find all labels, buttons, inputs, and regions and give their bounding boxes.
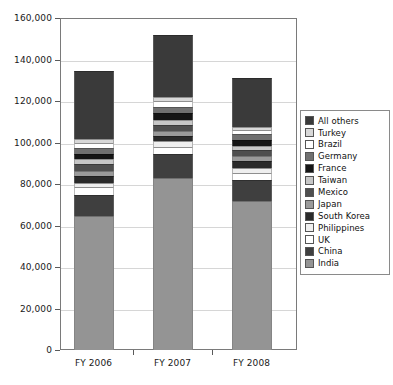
legend-item-label: Brazil [318,140,342,149]
x-axis-tick-label: FY 2007 [154,358,191,368]
bar-fy-2006 [74,71,114,350]
legend-swatch-icon [305,223,314,232]
bar-segment-india [153,178,193,350]
y-axis-tick-mark [55,60,60,61]
legend-item-india[interactable]: India [305,258,386,270]
legend-item-label: Taiwan [318,176,347,185]
legend-swatch-icon [305,235,314,244]
bar-segment-uk [153,147,193,154]
legend-item-france[interactable]: France [305,163,386,175]
legend-item-label: France [318,164,347,173]
bar-segment-germany [153,107,193,113]
x-axis-tick-label: FY 2006 [75,358,112,368]
bar-segment-india [232,201,272,350]
bar-segment-taiwan [232,146,272,150]
legend-swatch-icon [305,164,314,173]
y-axis-tick-mark [55,101,60,102]
bar-segment-turkey [153,97,193,101]
bar-segment-all-others [232,78,272,127]
bar-segment-all-others [153,35,193,97]
bar-segment-brazil [232,130,272,134]
stacked-bar-chart: 020,00040,00060,00080,000100,000120,0001… [0,0,393,385]
bar-segment-philippines [74,183,114,187]
y-axis-tick-label: 100,000 [14,138,52,148]
bar-segment-taiwan [74,159,114,164]
bar-segment-taiwan [153,120,193,125]
bar-segment-turkey [74,139,114,142]
bar-segment-france [74,154,114,159]
legend-item-label: Japan [318,200,342,209]
legend-item-label: India [318,259,339,268]
legend-item-china[interactable]: China [305,246,386,258]
legend-swatch-icon [305,152,314,161]
bar-segment-mexico [74,164,114,170]
legend-swatch-icon [305,188,314,197]
legend-item-label: Mexico [318,188,348,197]
legend-swatch-icon [305,116,314,125]
y-axis-tick-mark [55,143,60,144]
legend: All othersTurkeyBrazilGermanyFranceTaiwa… [300,110,390,275]
y-axis-tick-mark [55,309,60,310]
y-axis-tick-label: 140,000 [14,55,52,65]
y-axis-tick-mark [55,350,60,351]
y-axis-tick-label: 60,000 [20,221,52,231]
bar-segment-mexico [153,125,193,131]
legend-item-taiwan[interactable]: Taiwan [305,174,386,186]
bar-fy-2008 [232,78,272,350]
bar-segment-japan [232,156,272,161]
legend-item-brazil[interactable]: Brazil [305,139,386,151]
bar-segment-japan [153,131,193,136]
y-axis-tick-label: 0 [46,345,52,355]
legend-item-uk[interactable]: UK [305,234,386,246]
y-axis-tick-mark [55,184,60,185]
bar-fy-2007 [153,35,193,350]
legend-swatch-icon [305,200,314,209]
legend-item-philippines[interactable]: Philippines [305,222,386,234]
bar-segment-germany [74,148,114,154]
legend-item-all-others[interactable]: All others [305,115,386,127]
y-axis-tick-mark [55,226,60,227]
legend-swatch-icon [305,247,314,256]
legend-swatch-icon [305,140,314,149]
legend-item-label: All others [318,117,359,126]
y-axis-tick-label: 120,000 [14,96,52,106]
bar-segment-philippines [232,168,272,172]
legend-item-mexico[interactable]: Mexico [305,186,386,198]
bar-segment-south-korea [74,176,114,183]
legend-item-label: Germany [318,152,357,161]
legend-item-south-korea[interactable]: South Korea [305,210,386,222]
bar-segment-france [232,140,272,145]
legend-swatch-icon [305,212,314,221]
bar-segment-uk [74,187,114,195]
legend-item-label: Philippines [318,224,364,233]
bar-segment-china [74,195,114,216]
bar-segment-china [232,180,272,201]
legend-swatch-icon [305,176,314,185]
legend-item-label: China [318,247,343,256]
legend-item-germany[interactable]: Germany [305,151,386,163]
x-axis-tick-mark [212,350,213,355]
legend-item-label: South Korea [318,212,370,221]
bar-segment-china [153,154,193,178]
y-axis-tick-label: 80,000 [20,179,52,189]
legend-item-label: UK [318,236,330,245]
y-axis-tick-label: 160,000 [14,13,52,23]
y-axis-tick-mark [55,18,60,19]
y-axis-tick-mark [55,267,60,268]
bar-segment-japan [74,171,114,176]
legend-item-turkey[interactable]: Turkey [305,127,386,139]
y-axis-tick-label: 40,000 [20,262,52,272]
legend-item-label: Turkey [318,129,346,138]
bar-segment-france [153,113,193,119]
y-axis-tick-label: 20,000 [20,304,52,314]
bar-segment-all-others [74,71,114,139]
bar-segment-brazil [74,143,114,148]
bar-segment-india [74,216,114,350]
bar-segment-mexico [232,150,272,156]
x-axis-tick-label: FY 2008 [233,358,270,368]
legend-swatch-icon [305,128,314,137]
bar-segment-philippines [153,141,193,146]
bar-segment-turkey [232,127,272,130]
legend-item-japan[interactable]: Japan [305,198,386,210]
bar-segment-germany [232,134,272,140]
